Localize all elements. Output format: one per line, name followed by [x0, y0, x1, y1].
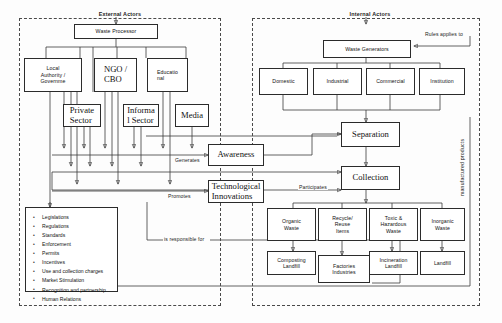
node-stream-organic-waste[interactable]: Organic Waste [267, 208, 316, 241]
node-policy-instruments[interactable]: Legislations Regulations Standards Enfor… [25, 207, 118, 292]
list-item: Human Relations [42, 295, 113, 304]
list-item: Incentives [42, 258, 113, 267]
node-waste-generators[interactable]: Waste Generators [323, 40, 411, 58]
list-item: Permits [42, 249, 113, 258]
edge-label-manufactured-products: manufactured products [459, 139, 465, 196]
node-treatment-incineration-landfill[interactable]: Incineration Landfill [369, 251, 418, 275]
node-stream-toxic-hazardous[interactable]: Toxic & Hazardous Waste [369, 208, 418, 241]
node-treatment-landfill[interactable]: Landfill [420, 251, 465, 275]
node-treatment-incineration-landfill-label: Incineration Landfill [378, 257, 408, 270]
node-educational[interactable]: Educatio nal [147, 58, 188, 92]
list-item: Standards [42, 231, 113, 240]
node-ngo-cbo-label: NGO / CBO [103, 65, 128, 84]
node-local-authority-label: Local Authority / Governme [39, 65, 66, 84]
node-stream-organic-waste-label: Organic Waste [281, 218, 302, 231]
node-generator-industrial-label: Industrial [325, 78, 349, 84]
node-awareness-label: Awareness [217, 150, 256, 160]
node-collection-label: Collection [352, 173, 390, 183]
node-generator-domestic-label: Domestic [271, 78, 295, 84]
node-generator-domestic[interactable]: Domestic [259, 68, 308, 95]
node-treatment-factories-industries-label: Factories Industries [331, 263, 357, 276]
node-generator-institution-label: Institution [429, 78, 454, 84]
diagram-canvas: External Actors Internal Actors Waste Pr… [0, 0, 502, 323]
node-local-authority[interactable]: Local Authority / Governme [24, 58, 82, 92]
edge-label-promotes: Promotes [167, 193, 192, 199]
list-item: Enforcement [42, 240, 113, 249]
node-media[interactable]: Media [175, 104, 209, 127]
node-generator-institution[interactable]: Institution [419, 68, 465, 95]
list-item: Recognition and partnership [42, 286, 113, 295]
node-stream-toxic-hazardous-label: Toxic & Hazardous Waste [380, 215, 408, 234]
node-collection[interactable]: Collection [341, 166, 400, 190]
edge-label-participates: Participates [298, 184, 328, 190]
node-waste-processor[interactable]: Waste Processor [74, 24, 158, 39]
list-item: Use and collection charges [42, 267, 113, 276]
external-actors-title: External Actors [78, 11, 162, 17]
node-technological-innovations-label: Technological Innovations [211, 182, 262, 201]
node-generator-commercial-label: Commercial [375, 78, 406, 84]
node-treatment-factories-industries[interactable]: Factories Industries [318, 255, 370, 283]
node-separation[interactable]: Separation [341, 122, 400, 147]
list-item: Market Stimulation [42, 276, 113, 285]
edge-label-is-responsible-for: is responsible for [163, 236, 205, 242]
node-ngo-cbo[interactable]: NGO / CBO [94, 58, 137, 92]
edge-label-generates: Generates [174, 157, 201, 163]
node-generator-industrial[interactable]: Industrial [313, 68, 362, 95]
list-item: Regulations [42, 222, 113, 231]
node-separation-label: Separation [351, 130, 390, 140]
node-educational-label: Educatio nal [156, 69, 179, 82]
node-private-sector-label: Private Sector [69, 106, 95, 125]
node-treatment-composting-landfill[interactable]: Composting Landfill [267, 251, 316, 275]
policy-instruments-list: Legislations Regulations Standards Enfor… [30, 213, 113, 304]
node-stream-recycle-reuse[interactable]: Recycle/ Reuse Items [318, 208, 367, 241]
node-waste-generators-label: Waste Generators [344, 46, 390, 52]
internal-actors-title: Internal Actors [328, 11, 412, 17]
node-treatment-composting-landfill-label: Composting Landfill [276, 257, 307, 270]
node-stream-inorganic-waste-label: Inorganic Waste [430, 218, 454, 231]
node-informal-sector[interactable]: Informa l Sector [123, 104, 159, 127]
node-private-sector[interactable]: Private Sector [63, 104, 101, 127]
node-informal-sector-label: Informa l Sector [126, 106, 156, 125]
node-treatment-landfill-label: Landfill [433, 260, 452, 266]
node-stream-recycle-reuse-label: Recycle/ Reuse Items [331, 215, 354, 234]
node-waste-processor-label: Waste Processor [95, 28, 138, 34]
list-item: Legislations [42, 213, 113, 222]
node-generator-commercial[interactable]: Commercial [366, 68, 415, 95]
node-awareness[interactable]: Awareness [208, 144, 264, 166]
node-media-label: Media [180, 111, 204, 121]
edge-label-rules-applies-to: Rules applies to [424, 31, 464, 37]
node-stream-inorganic-waste[interactable]: Inorganic Waste [420, 208, 465, 241]
node-technological-innovations[interactable]: Technological Innovations [208, 180, 264, 203]
